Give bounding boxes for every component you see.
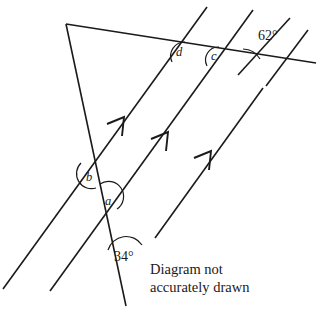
angle-label-b: b — [86, 170, 92, 184]
angle-label-a: a — [105, 194, 111, 208]
parallel-line-2 — [50, 10, 253, 291]
geometry-diagram: d c 62° b a 34° Diagram not accurately d… — [0, 0, 322, 314]
angle-label-c: c — [211, 49, 217, 63]
angle-label-62: 62° — [258, 28, 278, 43]
parallel-arrow-mark-3 — [194, 151, 211, 170]
note-line-1: Diagram not — [150, 261, 223, 277]
angle-label-d: d — [176, 45, 183, 59]
geometry-canvas: d c 62° b a 34° Diagram not accurately d… — [0, 0, 322, 314]
note-line-2: accurately drawn — [150, 279, 250, 295]
angle-label-34: 34° — [114, 249, 134, 264]
parallel-line-3b — [238, 18, 290, 75]
